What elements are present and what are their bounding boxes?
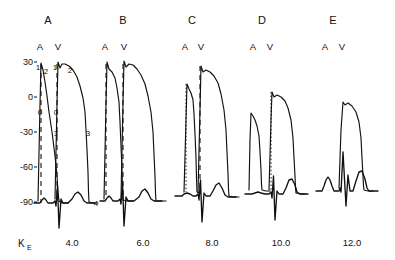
phase-label-a-ventricular-2: 2 [68, 66, 73, 75]
panel-a-ventricular-action-potential [55, 62, 98, 203]
marker-atrial-e: A [322, 41, 329, 52]
action-potential-figure: A B C D E A V A V A V A V A V 30 0 -30 -… [0, 0, 395, 260]
panel-title-a: A [44, 14, 52, 26]
panel-e-ecg-trace [316, 152, 378, 206]
panel-a-group: 1 2 1 2 0 0 3 3 4 [34, 62, 99, 228]
marker-atrial-d: A [250, 41, 257, 52]
panel-b-ecg-trace [100, 182, 162, 226]
marker-ventricular-d: V [267, 41, 274, 52]
y-tick-0: 0 [28, 92, 33, 102]
phase-label-a-atrial-2: 2 [44, 67, 49, 76]
figure-root: A B C D E A V A V A V A V A V 30 0 -30 -… [0, 0, 395, 260]
y-tick-minus60: -60 [20, 162, 33, 172]
marker-atrial-a: A [37, 41, 44, 52]
marker-ventricular-a: V [55, 41, 62, 52]
marker-ventricular-b: V [121, 41, 128, 52]
phase-label-a-4: 4 [94, 199, 99, 208]
panel-e-group [316, 102, 378, 206]
marker-ventricular-e: V [339, 41, 346, 52]
panel-d-group [245, 92, 308, 220]
panel-title-b: B [119, 14, 126, 26]
x-axis-label-k-subscript: E [27, 244, 32, 251]
panel-d-ventricular-action-potential [269, 92, 305, 194]
panel-d-ecg-trace [245, 176, 308, 220]
marker-ventricular-c: V [198, 41, 205, 52]
phase-label-a-atrial-1: 1 [36, 63, 41, 72]
phase-label-a-atrial-0: 0 [38, 108, 43, 117]
y-tick-30: 30 [23, 57, 33, 67]
phase-label-a-ventricular-1: 1 [53, 63, 58, 72]
panel-b-atrial-action-potential [104, 62, 133, 201]
x-axis-label-k: K [18, 238, 25, 249]
k-value-panel-c: 8.0 [205, 237, 218, 248]
y-tick-minus30: -30 [20, 127, 33, 137]
panel-b-group [100, 61, 166, 226]
k-value-panel-d: 10.0 [272, 237, 291, 248]
panel-b-ventricular-action-potential [121, 61, 166, 201]
panel-a-ecg-trace [34, 186, 95, 228]
marker-atrial-b: A [102, 41, 109, 52]
panel-c-group [175, 66, 239, 222]
phase-label-a-ventricular-3: 3 [86, 129, 91, 138]
k-value-panel-e: 12.0 [343, 237, 362, 248]
phase-label-a-atrial-3: 3 [54, 129, 59, 138]
k-value-panel-a: 4.0 [65, 237, 78, 248]
y-tick-minus90: -90 [20, 197, 33, 207]
panel-title-c: C [188, 14, 196, 26]
panel-title-d: D [258, 14, 266, 26]
panel-title-e: E [329, 14, 336, 26]
phase-label-a-ventricular-0: 0 [54, 108, 59, 117]
k-value-panel-b: 6.0 [136, 237, 149, 248]
marker-atrial-c: A [182, 41, 189, 52]
panel-c-ventricular-action-potential [198, 66, 239, 197]
panel-d-atrial-action-potential [249, 113, 270, 191]
